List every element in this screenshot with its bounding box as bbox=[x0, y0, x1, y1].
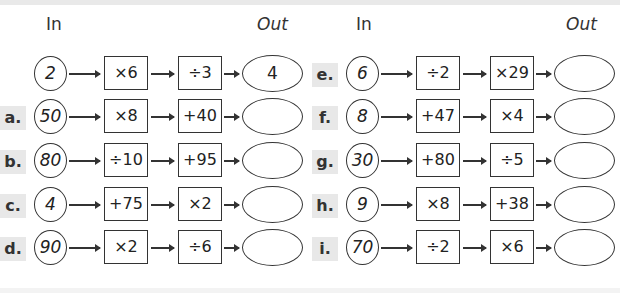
problem-label: h. bbox=[312, 194, 338, 218]
operation-box-1: ×8 bbox=[104, 99, 148, 133]
function-machine-h: h. 9 ×8 +38 bbox=[312, 185, 618, 225]
arrow-icon bbox=[463, 116, 486, 118]
output-oval[interactable] bbox=[554, 98, 615, 135]
problem-label: i. bbox=[312, 237, 338, 261]
operation-box-2: ÷3 bbox=[178, 56, 222, 90]
problem-label: d. bbox=[0, 237, 26, 261]
arrow-icon bbox=[536, 73, 551, 75]
arrow-icon bbox=[536, 204, 551, 206]
operation-box-1: ×8 bbox=[416, 187, 460, 221]
arrow-icon bbox=[224, 160, 239, 162]
operation-box-1: +75 bbox=[104, 187, 148, 221]
operation-box-2: ÷6 bbox=[178, 230, 222, 264]
input-circle: 4 bbox=[34, 187, 67, 222]
operation-box-1: +80 bbox=[416, 143, 460, 177]
input-circle: 2 bbox=[34, 56, 67, 91]
arrow-icon bbox=[463, 160, 486, 162]
problem-label: b. bbox=[0, 150, 26, 174]
problem-label: f. bbox=[312, 106, 338, 130]
output-oval[interactable] bbox=[242, 142, 303, 179]
arrow-icon bbox=[151, 116, 174, 118]
arrow-icon bbox=[463, 204, 486, 206]
output-oval[interactable] bbox=[242, 98, 303, 135]
arrow-icon bbox=[151, 160, 174, 162]
header-out-left: Out bbox=[257, 14, 288, 34]
output-oval[interactable] bbox=[554, 142, 615, 179]
arrow-icon bbox=[536, 247, 551, 249]
operation-box-1: ×6 bbox=[104, 56, 148, 90]
arrow-icon bbox=[381, 116, 412, 118]
output-oval[interactable] bbox=[554, 55, 615, 92]
problem-label: a. bbox=[0, 106, 26, 130]
arrow-icon bbox=[381, 204, 412, 206]
input-circle: 6 bbox=[346, 56, 379, 91]
operation-box-1: ×2 bbox=[104, 230, 148, 264]
arrow-icon bbox=[536, 160, 551, 162]
arrow-icon bbox=[536, 116, 551, 118]
arrow-icon bbox=[463, 73, 486, 75]
output-oval[interactable] bbox=[242, 229, 303, 266]
output-oval[interactable] bbox=[554, 186, 615, 223]
operation-box-2: ×29 bbox=[490, 56, 534, 90]
problem-label: g. bbox=[312, 150, 338, 174]
arrow-icon bbox=[69, 247, 100, 249]
operation-box-2: ×2 bbox=[178, 187, 222, 221]
operation-box-1: ÷10 bbox=[104, 143, 148, 177]
arrow-icon bbox=[69, 204, 100, 206]
input-circle: 70 bbox=[346, 230, 379, 265]
arrow-icon bbox=[151, 247, 174, 249]
operation-box-1: +47 bbox=[416, 99, 460, 133]
arrow-icon bbox=[224, 204, 239, 206]
input-circle: 80 bbox=[34, 143, 67, 178]
output-oval[interactable] bbox=[554, 229, 615, 266]
operation-box-2: +95 bbox=[178, 143, 222, 177]
header-out-right: Out bbox=[566, 14, 597, 34]
function-machine-example: 2 ×6 ÷3 4 bbox=[0, 54, 306, 94]
function-machine-c: c. 4 +75 ×2 bbox=[0, 185, 306, 225]
function-machine-f: f. 8 +47 ×4 bbox=[312, 97, 618, 137]
arrow-icon bbox=[381, 160, 412, 162]
operation-box-1: ÷2 bbox=[416, 230, 460, 264]
input-circle: 9 bbox=[346, 187, 379, 222]
input-circle: 90 bbox=[34, 230, 67, 265]
arrow-icon bbox=[69, 160, 100, 162]
operation-box-2: +40 bbox=[178, 99, 222, 133]
top-band bbox=[0, 0, 620, 5]
arrow-icon bbox=[224, 247, 239, 249]
input-circle: 50 bbox=[34, 99, 67, 134]
problem-label: e. bbox=[312, 63, 338, 87]
problem-label: c. bbox=[0, 194, 26, 218]
bottom-band bbox=[0, 288, 620, 293]
arrow-icon bbox=[381, 73, 412, 75]
function-machine-d: d. 90 ×2 ÷6 bbox=[0, 228, 306, 268]
function-machine-g: g. 30 +80 ÷5 bbox=[312, 141, 618, 181]
header-in-left: In bbox=[46, 14, 62, 34]
operation-box-2: ×6 bbox=[490, 230, 534, 264]
header-in-right: In bbox=[356, 14, 372, 34]
arrow-icon bbox=[224, 73, 239, 75]
operation-box-1: ÷2 bbox=[416, 56, 460, 90]
operation-box-2: +38 bbox=[490, 187, 534, 221]
operation-box-2: ×4 bbox=[490, 99, 534, 133]
input-circle: 8 bbox=[346, 99, 379, 134]
arrow-icon bbox=[463, 247, 486, 249]
function-machine-a: a. 50 ×8 +40 bbox=[0, 97, 306, 137]
arrow-icon bbox=[224, 116, 239, 118]
input-circle: 30 bbox=[346, 143, 379, 178]
function-machine-i: i. 70 ÷2 ×6 bbox=[312, 228, 618, 268]
output-oval: 4 bbox=[242, 55, 303, 92]
function-machine-b: b. 80 ÷10 +95 bbox=[0, 141, 306, 181]
function-machine-e: e. 6 ÷2 ×29 bbox=[312, 54, 618, 94]
arrow-icon bbox=[381, 247, 412, 249]
output-oval[interactable] bbox=[242, 186, 303, 223]
operation-box-2: ÷5 bbox=[490, 143, 534, 177]
arrow-icon bbox=[69, 73, 100, 75]
arrow-icon bbox=[69, 116, 100, 118]
arrow-icon bbox=[151, 204, 174, 206]
arrow-icon bbox=[151, 73, 174, 75]
